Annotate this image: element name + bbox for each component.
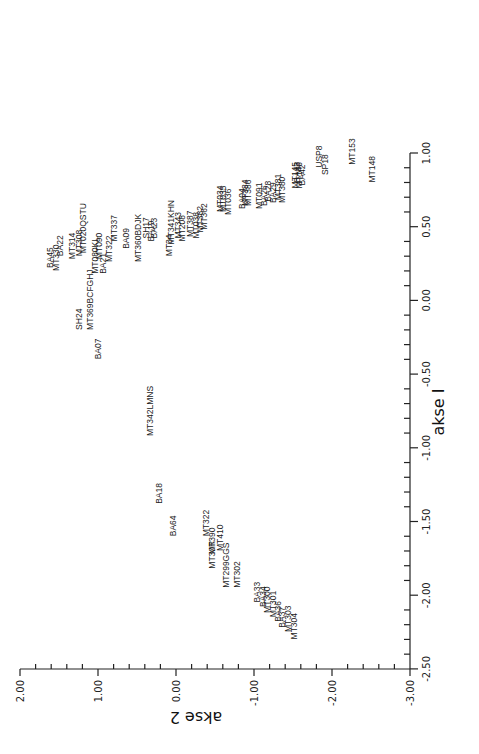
x-tick-labels: 2.001.000.00-1.00-2.00-3.00 bbox=[15, 680, 416, 706]
data-point-label: MT091 bbox=[254, 182, 264, 209]
data-point-label: MT360BDJK bbox=[133, 214, 143, 263]
y-axis-title: akse I bbox=[429, 388, 448, 435]
data-point-label: MT369BCFGHJ bbox=[85, 269, 95, 329]
x-tick-label: -3.00 bbox=[405, 680, 416, 706]
x-tick-label: 1.00 bbox=[93, 680, 104, 702]
data-point-label: MT302 bbox=[232, 561, 242, 588]
data-point-label: MT342LMNS bbox=[145, 386, 155, 436]
x-tick-label: 2.00 bbox=[15, 680, 26, 702]
data-point-label: BA07 bbox=[93, 338, 103, 359]
data-point-label: BA18 bbox=[154, 483, 164, 504]
data-point-label: MT34 bbox=[164, 234, 174, 256]
y-tick-label: 0.50 bbox=[421, 216, 432, 238]
y-axis: 1.000.500.00-0.50-1.00-1.50-2.00-2.50 ak… bbox=[404, 142, 448, 682]
x-minor-ticks bbox=[20, 664, 410, 676]
x-tick-label: -1.00 bbox=[249, 680, 260, 706]
data-point-label: BA04 bbox=[237, 188, 247, 209]
scatter-chart: MT148MT153SP18USP8BA42BA43MT146MT145MT38… bbox=[0, 0, 479, 754]
data-point-label: MT034 bbox=[215, 185, 225, 212]
x-axis: 2.001.000.00-1.00-2.00-3.00 akse 2 bbox=[15, 664, 416, 727]
y-tick-label: 0.00 bbox=[421, 289, 432, 311]
data-point-label: MT314 bbox=[67, 232, 77, 259]
data-point-label: MT330 bbox=[51, 244, 61, 271]
y-tick-label: -2.50 bbox=[421, 656, 432, 682]
data-point-label: MT153 bbox=[347, 138, 357, 165]
data-point-label: BA64 bbox=[168, 515, 178, 536]
y-tick-label: -1.50 bbox=[421, 509, 432, 535]
y-tick-label: -0.50 bbox=[421, 361, 432, 387]
data-point-label: MT390 bbox=[207, 527, 217, 554]
data-point-label: MT145 bbox=[290, 162, 300, 189]
y-tick-label: -2.00 bbox=[421, 582, 432, 608]
x-axis-title: akse 2 bbox=[170, 708, 223, 727]
data-point-label: MT304 bbox=[289, 613, 299, 640]
y-tick-label: 1.00 bbox=[421, 142, 432, 164]
y-minor-ticks bbox=[404, 153, 418, 669]
x-tick-label: -2.00 bbox=[327, 680, 338, 706]
data-point-label: BA09 bbox=[121, 228, 131, 249]
data-point-label: USP8 bbox=[314, 145, 324, 167]
data-point-label: MT090 bbox=[94, 232, 104, 259]
data-point-label: MT299GGS bbox=[221, 542, 231, 588]
x-tick-label: 0.00 bbox=[171, 680, 182, 702]
data-point-label: SH24 bbox=[74, 308, 84, 330]
data-points: MT148MT153SP18USP8BA42BA43MT146MT145MT38… bbox=[45, 138, 377, 639]
data-point-label: MT148 bbox=[367, 156, 377, 183]
y-tick-label: -1.00 bbox=[421, 435, 432, 461]
